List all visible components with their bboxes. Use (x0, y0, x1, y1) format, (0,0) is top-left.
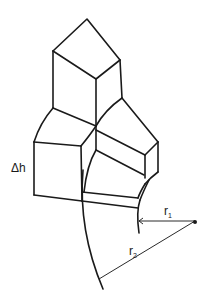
block-diagram: Δh r1 r2 (0, 0, 206, 305)
label-delta-h: Δh (11, 161, 26, 175)
top-block (53, 19, 122, 126)
inner-arc-r1 (138, 200, 140, 233)
radius-line-r2 (99, 221, 195, 279)
label-r2: r2 (129, 244, 137, 259)
label-r1: r1 (164, 204, 172, 219)
right-block (84, 98, 158, 192)
left-block (34, 108, 96, 201)
center-point (193, 220, 197, 224)
